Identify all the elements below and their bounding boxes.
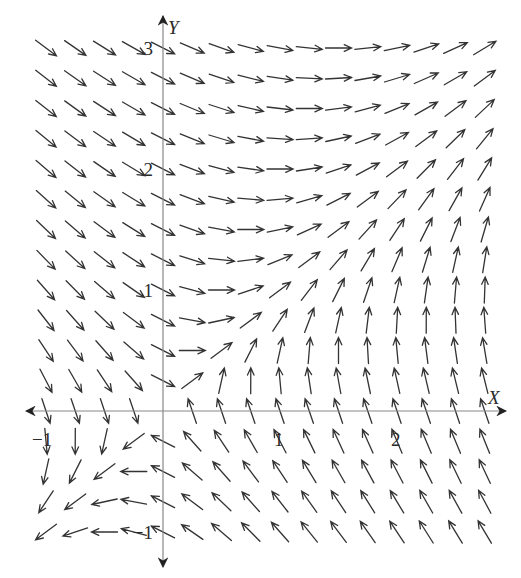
slope-arrow — [245, 339, 257, 362]
slope-arrow — [267, 225, 292, 232]
slope-arrow — [94, 101, 116, 115]
slope-arrow — [364, 338, 371, 364]
slope-arrow — [123, 132, 145, 145]
slope-arrow — [448, 159, 464, 180]
slope-arrow — [365, 307, 372, 333]
slope-arrow — [333, 429, 344, 453]
slope-arrow — [267, 46, 293, 53]
slope-arrow — [331, 491, 345, 513]
slope-arrow — [123, 434, 144, 450]
slope-arrow — [424, 277, 431, 303]
slope-arrow — [37, 280, 54, 299]
slope-arrow — [273, 461, 287, 483]
slope-arrow — [36, 100, 56, 116]
slope-arrow — [302, 491, 317, 512]
x-axis-label: X — [487, 387, 501, 408]
slope-arrow — [65, 101, 86, 116]
slope-arrow — [444, 43, 468, 54]
slope-arrow — [391, 460, 403, 483]
y-tick-label: 3 — [144, 38, 154, 59]
slope-arrow — [97, 370, 111, 392]
slope-arrow — [361, 491, 375, 513]
slope-arrow — [184, 432, 201, 452]
slope-arrow — [92, 529, 118, 536]
slope-arrow — [180, 164, 204, 174]
slope-arrow — [238, 226, 264, 233]
axis-labels: X Y −112 321−1 — [32, 17, 501, 543]
slope-arrow — [271, 522, 288, 541]
slope-arrow — [304, 430, 315, 453]
slope-arrow — [394, 307, 401, 333]
slope-arrow — [452, 307, 459, 333]
slope-arrow — [355, 74, 381, 80]
slope-arrow — [72, 428, 79, 454]
slope-arrow — [66, 251, 85, 269]
slope-arrow — [326, 134, 351, 141]
slope-arrow — [36, 70, 57, 86]
slope-arrow — [65, 41, 86, 56]
slope-arrow — [390, 521, 404, 543]
slope-arrow — [336, 308, 343, 333]
slope-arrow — [63, 528, 88, 537]
slope-arrow — [95, 311, 114, 329]
slope-arrow — [238, 75, 263, 83]
slope-arrow — [385, 74, 410, 83]
x-tick-label: 1 — [274, 429, 284, 450]
slope-arrow — [297, 224, 321, 235]
slope-arrow — [423, 307, 430, 333]
direction-field-diagram: X Y −112 321−1 — [0, 0, 521, 578]
slope-arrow — [36, 161, 56, 178]
slope-arrow — [36, 131, 56, 148]
slope-arrow — [392, 248, 402, 272]
slope-arrow — [390, 219, 404, 241]
slope-arrow — [299, 252, 320, 268]
slope-arrow — [326, 75, 352, 82]
slope-arrow — [123, 72, 146, 85]
slope-arrow — [267, 106, 293, 113]
slope-arrow — [121, 498, 147, 505]
slope-arrow — [478, 521, 491, 543]
slope-arrow — [479, 490, 491, 513]
slope-arrow — [180, 225, 205, 234]
slope-arrow — [94, 71, 116, 85]
slope-arrow — [446, 130, 465, 148]
slope-arrow — [121, 468, 147, 475]
slope-arrow — [39, 340, 53, 362]
slope-arrow — [356, 134, 380, 144]
slope-arrow — [328, 222, 349, 238]
slope-arrow — [213, 462, 230, 481]
slope-arrow — [482, 277, 489, 303]
slope-arrow — [335, 338, 342, 364]
slope-arrow — [386, 133, 409, 146]
slope-arrow — [65, 131, 86, 147]
slope-arrow — [180, 256, 205, 265]
slope-arrow — [305, 308, 315, 332]
slope-arrow — [209, 135, 234, 144]
slope-arrow — [479, 460, 490, 484]
slope-arrow — [477, 129, 494, 149]
slope-arrow — [180, 287, 205, 295]
slope-arrow — [326, 45, 352, 52]
slope-arrow — [417, 160, 435, 178]
slope-arrow — [394, 277, 401, 302]
slope-arrow — [445, 101, 466, 117]
slope-arrow — [277, 338, 284, 363]
slope-arrow — [481, 338, 487, 364]
slope-arrow — [95, 282, 115, 299]
slope-arrow — [182, 525, 203, 540]
slope-arrow — [212, 493, 231, 511]
slope-arrow — [69, 460, 81, 483]
slope-arrow — [92, 499, 117, 506]
slope-arrow — [384, 44, 409, 51]
slope-arrow — [219, 368, 226, 393]
slope-arrow — [422, 338, 429, 364]
slope-arrow — [296, 75, 322, 82]
slope-arrow — [209, 287, 235, 294]
slope-arrow — [450, 460, 461, 483]
slope-arrow — [94, 252, 114, 268]
slope-arrow — [453, 277, 460, 303]
slope-arrow — [330, 250, 347, 270]
slope-arrow — [415, 102, 438, 115]
slope-arrow — [123, 162, 145, 175]
slope-arrow — [211, 343, 232, 359]
